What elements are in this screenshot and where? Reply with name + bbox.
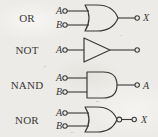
input-label-b-or: B: [56, 20, 62, 30]
gate-name-not: NOT: [0, 45, 54, 56]
output-terminal-nand: [135, 83, 139, 87]
input-terminal-b-nor: [63, 124, 67, 128]
gate-symbol-nor: [63, 107, 137, 132]
output-terminal-nor: [132, 117, 136, 121]
gate-symbol-nand: [63, 72, 140, 98]
input-label-a-or: A: [56, 6, 62, 16]
and-gate-body: [87, 72, 117, 98]
input-label-a-nor: A: [56, 108, 62, 118]
output-terminal-not: [135, 48, 139, 52]
output-terminal-or: [135, 16, 139, 20]
output-label-nand: A: [143, 81, 149, 91]
input-label-b-nand: B: [56, 87, 62, 97]
gate-name-nor: NOR: [0, 115, 54, 126]
output-label-or: X: [143, 13, 149, 23]
input-label-a-not: A: [56, 45, 62, 55]
scan-speck: [44, 66, 46, 67]
input-label-b-nor: B: [56, 121, 62, 131]
input-terminal-b-nand: [63, 90, 67, 94]
nor-gate-body: [85, 107, 117, 132]
scan-speck: [70, 132, 74, 133]
input-terminal-a-nor: [63, 111, 67, 115]
gate-name-nand: NAND: [0, 80, 54, 91]
gate-name-or: OR: [0, 13, 54, 24]
input-terminal-a-or: [63, 9, 67, 13]
input-terminal-b-or: [63, 23, 67, 27]
output-label-nor: X: [141, 115, 147, 125]
input-terminal-a-nand: [63, 76, 67, 80]
scan-speck: [120, 35, 122, 36]
scan-speck: [96, 101, 99, 102]
logic-gates-figure: OR A B X NOT A NAND A B A NOR A B X: [0, 0, 158, 137]
gate-symbol-not: [63, 38, 140, 62]
or-gate-body: [85, 5, 118, 31]
input-terminal-a-not: [63, 48, 67, 52]
gate-symbol-or: [63, 5, 140, 31]
inversion-bubble-nor: [117, 117, 122, 122]
input-label-a-nand: A: [56, 73, 62, 83]
not-gate-body: [84, 38, 110, 62]
